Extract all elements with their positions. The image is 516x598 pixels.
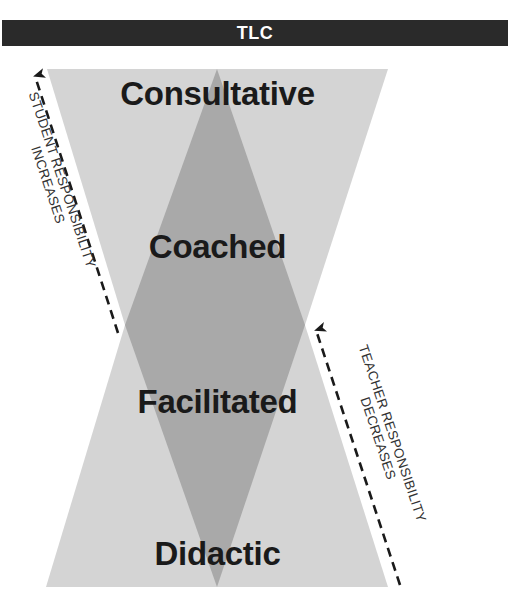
level-facilitated: Facilitated: [47, 383, 388, 421]
level-didactic: Didactic: [47, 535, 388, 573]
level-consultative: Consultative: [47, 75, 388, 113]
level-coached: Coached: [47, 228, 388, 266]
